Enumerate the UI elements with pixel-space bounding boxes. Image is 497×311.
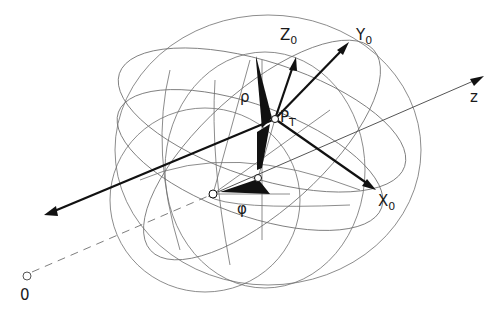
long-vector-shaft [52,119,275,212]
latitude-arc-lower [208,196,350,206]
meridian-arc-mid [214,80,230,265]
construction-line-2 [213,110,330,194]
diagram-svg [0,0,497,311]
origin-label: 0 [20,288,30,303]
sphere-outline [115,15,421,285]
origin-point-icon [23,272,31,280]
long-vector-arrowhead-icon [44,206,58,216]
construction-line-1 [213,60,250,194]
y0-label: Y0 [356,28,372,46]
rho-wedge-upper [256,56,272,128]
phi-label: φ [237,202,247,217]
z-axis-dashed-segment [32,194,213,272]
rho-wedge-lower [257,124,270,170]
point-pt-label: PT [280,110,296,128]
phi-wedge [220,179,270,194]
angle-wedges [220,56,272,194]
z0-arrowhead-icon [289,57,297,71]
z0-label: Z0 [280,28,297,46]
vectors [44,42,376,216]
z-axis-arrowhead-icon [470,76,484,86]
diagram-canvas: 0 z Z0 Y0 X0 PT ρ φ [0,0,497,311]
axis-intersection-point-icon [209,190,217,198]
projection-point-icon [255,175,262,182]
point-pt-marker-icon [272,116,279,123]
z-axis-solid-segment [213,79,478,194]
z-axis-label: z [470,90,478,105]
x0-label: X0 [378,194,395,212]
rho-label: ρ [240,90,250,105]
